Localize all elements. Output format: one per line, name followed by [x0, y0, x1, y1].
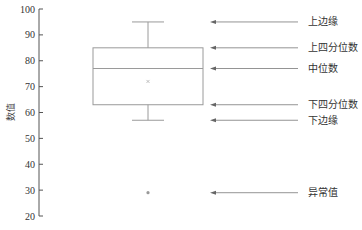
annotation-label: 中位数: [308, 62, 338, 74]
y-axis-label: 数值: [5, 103, 16, 121]
y-tick-label: 100: [20, 4, 35, 15]
annotation-q1: 下四分位数: [210, 98, 358, 110]
annotation-arrows: 上边缘上四分位数中位数下四分位数下边缘异常值: [210, 15, 358, 198]
annotation-label: 下边缘: [308, 114, 338, 126]
y-tick-label: 70: [25, 81, 35, 92]
arrow-head-icon: [210, 191, 216, 195]
boxplot-chart: 2030405060708090100 上边缘上四分位数中位数下四分位数下边缘异…: [0, 0, 362, 230]
y-tick-label: 90: [25, 29, 35, 40]
arrow-head-icon: [210, 103, 216, 107]
box-plot: [93, 22, 203, 194]
outlier-point: [146, 191, 149, 194]
arrow-head-icon: [210, 118, 216, 122]
annotation-label: 上边缘: [308, 15, 338, 27]
annotation-upper_whisker: 上边缘: [210, 15, 338, 27]
arrow-head-icon: [210, 46, 216, 50]
annotation-label: 上四分位数: [308, 41, 358, 53]
y-axis: 2030405060708090100: [20, 4, 43, 222]
iqr-box: [93, 48, 203, 105]
boxplot-figure: 2030405060708090100 上边缘上四分位数中位数下四分位数下边缘异…: [0, 0, 362, 230]
y-tick-label: 60: [25, 107, 35, 118]
annotation-median: 中位数: [210, 62, 338, 74]
y-tick-label: 40: [25, 159, 35, 170]
annotation-label: 异常值: [308, 186, 338, 198]
y-tick-label: 50: [25, 133, 35, 144]
annotation-q3: 上四分位数: [210, 41, 358, 53]
y-tick-label: 80: [25, 55, 35, 66]
arrow-head-icon: [210, 67, 216, 71]
y-tick-label: 20: [25, 211, 35, 222]
annotation-label: 下四分位数: [308, 98, 358, 110]
annotation-outlier: 异常值: [210, 186, 338, 198]
y-tick-label: 30: [25, 185, 35, 196]
mean-marker-icon: [147, 80, 150, 83]
annotation-lower_whisker: 下边缘: [210, 114, 338, 126]
arrow-head-icon: [210, 20, 216, 24]
